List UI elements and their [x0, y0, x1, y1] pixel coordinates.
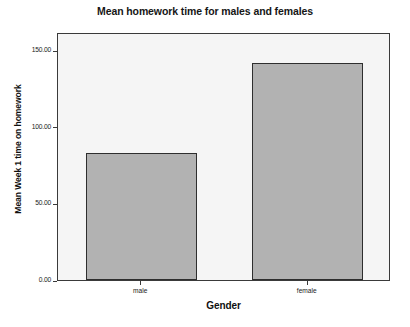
y-tick-50.00: 50.00 [0, 204, 57, 205]
x-tick-label: male [100, 287, 180, 294]
x-axis-title: Gender [57, 300, 390, 311]
y-tick-label: 100.00 [32, 123, 51, 130]
x-tick-label: female [267, 287, 347, 294]
plot-inner [58, 34, 389, 280]
x-tick-mark [140, 281, 141, 285]
y-tick-150.00: 150.00 [0, 51, 57, 52]
y-tick-0.00: 0.00 [0, 281, 57, 282]
y-tick-label: 50.00 [35, 199, 51, 206]
bar-male [86, 153, 197, 280]
x-tick-mark [307, 281, 308, 285]
y-tick-mark [53, 127, 57, 128]
chart-title: Mean homework time for males and females [0, 5, 410, 17]
y-tick-label: 150.00 [32, 46, 51, 53]
y-tick-mark [53, 51, 57, 52]
bar-female [252, 63, 363, 280]
y-tick-mark [53, 204, 57, 205]
y-tick-100.00: 100.00 [0, 128, 57, 129]
bar-chart: Mean homework time for males and females… [0, 0, 410, 327]
plot-area [57, 33, 390, 281]
y-tick-mark [53, 281, 57, 282]
y-tick-label: 0.00 [39, 276, 51, 283]
y-axis-title: Mean Week 1 time on homework [13, 49, 23, 249]
